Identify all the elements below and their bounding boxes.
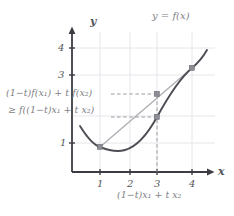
marker-curve-point: [154, 114, 159, 119]
y-tick-label-3: 3: [58, 70, 64, 80]
grid-lines: [72, 32, 215, 172]
x-axis-label: x: [218, 166, 225, 177]
y-tick-label-1: 1: [60, 138, 66, 148]
curve-equation-label: y = f(x): [152, 11, 190, 21]
x-axis-arrowhead: [207, 169, 215, 176]
marker-x1-on-curve: [97, 144, 102, 149]
x-combination-label: (1−t)x₁ + t x₂: [117, 190, 181, 200]
inequality-label-line2: ≥ f((1−t)x₁ + t x₂): [8, 105, 94, 115]
marker-x2-on-curve: [189, 65, 194, 70]
axes: [72, 34, 207, 172]
inequality-label-line1: (1−t)f(x₁) + t f(x₂): [6, 88, 92, 98]
x-tick-label-3: 3: [154, 179, 160, 189]
convexity-figure: y x y = f(x) 1 2 3 4 4 3 1 (1−t)f(x₁) + …: [0, 0, 234, 216]
guide-lines: [111, 94, 157, 172]
x-tick-label-2: 2: [127, 179, 133, 189]
x-tick-label-4: 4: [189, 179, 195, 189]
x-tick-label-1: 1: [97, 179, 103, 189]
y-axis-arrowhead: [69, 27, 76, 35]
marker-chord-point: [154, 91, 159, 96]
function-curve: [80, 50, 207, 151]
y-axis-label: y: [90, 16, 96, 27]
y-tick-label-4: 4: [58, 43, 64, 53]
